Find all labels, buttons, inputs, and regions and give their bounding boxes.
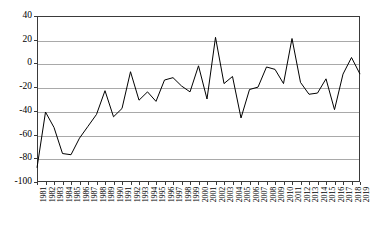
x-tick-mark-2016 <box>335 182 336 185</box>
x-tick-label-1981: 1981 <box>40 187 48 202</box>
y-axis: 40200-20-40-60-80-100 <box>0 0 37 233</box>
x-tick-mark-2011 <box>292 182 293 185</box>
data-line-layer <box>37 16 360 182</box>
x-tick-mark-2013 <box>309 182 310 185</box>
x-tick-label-1999: 1999 <box>193 187 201 202</box>
x-tick-mark-1994 <box>148 182 149 185</box>
x-tick-label-2019: 2019 <box>363 187 371 202</box>
x-tick-mark-2003 <box>224 182 225 185</box>
x-tick-mark-2015 <box>326 182 327 185</box>
x-tick-label-2013: 2013 <box>312 187 320 202</box>
y-tick-label-40: 40 <box>23 11 33 21</box>
x-tick-label-1987: 1987 <box>91 187 99 202</box>
x-tick-mark-1995 <box>156 182 157 185</box>
x-tick-mark-2005 <box>241 182 242 185</box>
x-tick-mark-2018 <box>352 182 353 185</box>
x-tick-label-2007: 2007 <box>261 187 269 202</box>
x-tick-mark-1993 <box>139 182 140 185</box>
x-tick-mark-1989 <box>105 182 106 185</box>
x-tick-mark-1981 <box>37 182 38 185</box>
x-tick-mark-2001 <box>207 182 208 185</box>
x-tick-mark-2004 <box>233 182 234 185</box>
x-tick-mark-2002 <box>216 182 217 185</box>
x-tick-mark-2012 <box>301 182 302 185</box>
x-tick-label-1985: 1985 <box>74 187 82 202</box>
x-axis: 1981198219831984198519861987198819891990… <box>37 182 360 233</box>
x-tick-label-2003: 2003 <box>227 187 235 202</box>
x-tick-label-2009: 2009 <box>278 187 286 202</box>
x-tick-label-2011: 2011 <box>295 187 303 202</box>
x-tick-label-2001: 2001 <box>210 187 218 202</box>
x-tick-label-2005: 2005 <box>244 187 252 202</box>
x-tick-label-1983: 1983 <box>57 187 65 202</box>
x-tick-label-1989: 1989 <box>108 187 116 202</box>
y-tick-label--60: -60 <box>19 130 32 140</box>
x-tick-mark-2009 <box>275 182 276 185</box>
x-tick-mark-2008 <box>267 182 268 185</box>
x-tick-mark-1991 <box>122 182 123 185</box>
x-tick-label-2017: 2017 <box>346 187 354 202</box>
y-tick-label--20: -20 <box>19 82 32 92</box>
x-tick-mark-1998 <box>182 182 183 185</box>
x-tick-mark-2019 <box>360 182 361 185</box>
x-tick-label-1991: 1991 <box>125 187 133 202</box>
y-tick-label-20: 20 <box>23 35 33 45</box>
x-tick-mark-1985 <box>71 182 72 185</box>
y-tick-label--100: -100 <box>15 177 32 187</box>
x-tick-label-1995: 1995 <box>159 187 167 202</box>
x-tick-mark-2014 <box>318 182 319 185</box>
x-tick-mark-1997 <box>173 182 174 185</box>
x-tick-label-1993: 1993 <box>142 187 150 202</box>
x-tick-mark-1984 <box>63 182 64 185</box>
x-tick-mark-1999 <box>190 182 191 185</box>
x-tick-mark-2007 <box>258 182 259 185</box>
x-tick-mark-1983 <box>54 182 55 185</box>
x-tick-mark-1996 <box>165 182 166 185</box>
x-tick-mark-2006 <box>250 182 251 185</box>
line-chart: 40200-20-40-60-80-100 198119821983198419… <box>0 0 380 233</box>
y-tick-label--80: -80 <box>19 154 32 164</box>
x-tick-mark-1992 <box>131 182 132 185</box>
x-tick-mark-2000 <box>199 182 200 185</box>
x-tick-label-1997: 1997 <box>176 187 184 202</box>
y-tick-label--40: -40 <box>19 106 32 116</box>
x-tick-mark-1986 <box>80 182 81 185</box>
x-tick-mark-1988 <box>97 182 98 185</box>
y-tick-label-0: 0 <box>27 59 32 69</box>
x-tick-mark-1982 <box>46 182 47 185</box>
x-tick-mark-1990 <box>114 182 115 185</box>
data-line-series-1 <box>37 37 360 167</box>
x-tick-mark-2010 <box>284 182 285 185</box>
x-tick-mark-1987 <box>88 182 89 185</box>
x-tick-mark-2017 <box>343 182 344 185</box>
x-tick-label-2015: 2015 <box>329 187 337 202</box>
